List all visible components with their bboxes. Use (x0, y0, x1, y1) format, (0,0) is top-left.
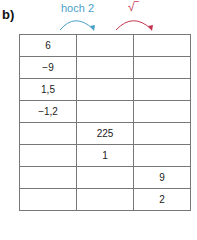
table-row: 1 (20, 145, 191, 167)
cell[interactable] (77, 167, 134, 189)
cell[interactable] (77, 189, 134, 211)
table-row: 1,5 (20, 79, 191, 101)
cell[interactable] (134, 101, 191, 123)
cell[interactable] (77, 57, 134, 79)
cell[interactable] (134, 57, 191, 79)
cell[interactable] (20, 123, 77, 145)
table-row: 2 (20, 189, 191, 211)
cell[interactable] (20, 145, 77, 167)
cell: 9 (134, 167, 191, 189)
cell[interactable] (20, 189, 77, 211)
cell[interactable] (77, 35, 134, 57)
cell: 225 (77, 123, 134, 145)
table-row: 225 (20, 123, 191, 145)
cell: 1,5 (20, 79, 77, 101)
cell: 6 (20, 35, 77, 57)
table-row: 6 (20, 35, 191, 57)
table-row: 9 (20, 167, 191, 189)
square-arrow-icon (60, 21, 95, 31)
cell: −9 (20, 57, 77, 79)
cell: 2 (134, 189, 191, 211)
cell: 1 (77, 145, 134, 167)
cell[interactable] (77, 79, 134, 101)
table-row: −9 (20, 57, 191, 79)
cell[interactable] (134, 35, 191, 57)
cell[interactable] (134, 123, 191, 145)
value-table: 6 −9 1,5 −1,2 225 1 9 2 (19, 34, 191, 211)
table-row: −1,2 (20, 101, 191, 123)
cell: −1,2 (20, 101, 77, 123)
sqrt-arrow-icon (116, 21, 153, 31)
cell[interactable] (134, 79, 191, 101)
cell[interactable] (20, 167, 77, 189)
cell[interactable] (77, 101, 134, 123)
cell[interactable] (134, 145, 191, 167)
